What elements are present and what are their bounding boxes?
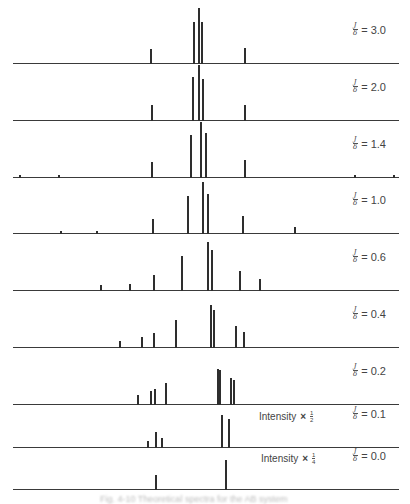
ratio-value: = 2.0 [361, 81, 386, 93]
spectrum-peak [202, 79, 204, 121]
ratio-label: Jδ= 1.0 [352, 192, 386, 207]
fraction-numerator: 1 [312, 452, 315, 459]
spectrum-peak [175, 320, 177, 348]
spectrum-peak [230, 378, 232, 405]
ratio-value: = 0.0 [361, 450, 386, 462]
spectrum-peak [243, 332, 245, 348]
spectrum-peak [202, 182, 204, 234]
spectrum-peak [198, 65, 200, 121]
fraction-denominator: δ [352, 30, 358, 37]
intensity-text: Intensity [261, 453, 298, 464]
j-over-delta-fraction: Jδ [352, 406, 358, 421]
ratio-label: Jδ= 0.1 [352, 406, 386, 421]
spectrum-baseline [13, 447, 399, 448]
spectrum-peak [165, 383, 167, 405]
spectrum-peak [393, 175, 395, 178]
ratio-value: = 0.4 [361, 308, 386, 320]
fraction-denominator: δ [352, 87, 358, 94]
fraction-denominator: 4 [312, 459, 315, 465]
spectrum-peak [244, 160, 246, 178]
fraction-denominator: δ [352, 144, 358, 151]
spectrum-peak [155, 475, 157, 490]
intensity-scale-note: Intensity×14 [261, 452, 315, 465]
intensity-scale-note: Intensity×12 [259, 410, 313, 423]
fraction-denominator: δ [352, 414, 358, 421]
spectrum-peak [137, 395, 139, 405]
intensity-fraction: 12 [310, 410, 313, 423]
spectrum-peak [129, 284, 131, 291]
spectrum-peak [147, 441, 149, 448]
spectrum-baseline [13, 290, 399, 291]
intensity-text: Intensity [259, 411, 296, 422]
spectrum-peak [207, 242, 209, 291]
spectrum-peak [201, 22, 203, 64]
spectrum-peak [19, 175, 21, 178]
spectrum-peak [100, 285, 102, 291]
spectrum-peak [242, 216, 244, 234]
spectrum-peak [151, 105, 153, 121]
spectrum-peak [150, 391, 152, 405]
spectrum-peak [244, 48, 246, 64]
spectrum-peak [154, 389, 156, 405]
spectrum-peak [96, 231, 98, 234]
spectrum-peak [190, 135, 192, 178]
multiply-sign: × [300, 411, 306, 422]
spectrum-peak [141, 337, 143, 348]
spectrum-peak [153, 333, 155, 348]
j-over-delta-fraction: Jδ [352, 363, 358, 378]
spectrum-peak [151, 162, 153, 178]
j-over-delta-fraction: Jδ [352, 22, 358, 37]
spectrum-peak [187, 196, 189, 234]
spectrum-peak [225, 460, 227, 490]
multiply-sign: × [302, 453, 308, 464]
intensity-fraction: 14 [312, 452, 315, 465]
spectrum-baseline [13, 347, 399, 348]
spectrum-peak [294, 227, 296, 234]
ratio-value: = 1.0 [361, 194, 386, 206]
spectrum-peak [200, 122, 202, 178]
spectrum-peak [239, 271, 241, 291]
spectrum-peak [211, 250, 213, 291]
spectrum-peak [193, 22, 195, 64]
spectrum-peak [198, 8, 200, 64]
fraction-denominator: 2 [310, 417, 313, 423]
spectrum-peak [153, 275, 155, 291]
fraction-numerator: 1 [310, 410, 313, 417]
spectrum-peak [150, 49, 152, 64]
spectrum-baseline [13, 404, 399, 405]
spectrum-peak [161, 438, 163, 448]
spectrum-peak [221, 415, 223, 448]
spectrum-peak [228, 419, 230, 448]
spectrum-peak [210, 305, 212, 348]
spectrum-peak [58, 175, 60, 178]
j-over-delta-fraction: Jδ [352, 306, 358, 321]
spectrum-peak [205, 133, 207, 178]
spectrum-baseline [13, 233, 399, 234]
fraction-denominator: δ [352, 314, 358, 321]
ratio-label: Jδ= 0.6 [352, 249, 386, 264]
ratio-value: = 3.0 [361, 24, 386, 36]
spectrum-peak [181, 256, 183, 291]
ratio-value: = 0.1 [361, 408, 386, 420]
fraction-denominator: δ [352, 200, 358, 207]
ratio-label: Jδ= 2.0 [352, 79, 386, 94]
spectrum-peak [235, 326, 237, 348]
spectrum-peak [192, 77, 194, 121]
fraction-denominator: δ [352, 257, 358, 264]
spectrum-peak [119, 341, 121, 348]
spectrum-baseline [13, 120, 399, 121]
ratio-value: = 0.6 [361, 251, 386, 263]
spectrum-peak [219, 370, 221, 405]
spectrum-peak [155, 432, 157, 448]
spectrum-baseline [13, 63, 399, 64]
spectrum-peak [207, 194, 209, 234]
ratio-value: = 0.2 [361, 365, 386, 377]
spectrum-baseline [13, 489, 399, 490]
j-over-delta-fraction: Jδ [352, 79, 358, 94]
ratio-label: Jδ= 0.0 [352, 448, 386, 463]
fraction-denominator: δ [352, 371, 358, 378]
j-over-delta-fraction: Jδ [352, 136, 358, 151]
j-over-delta-fraction: Jδ [352, 249, 358, 264]
spectrum-peak [354, 175, 356, 178]
